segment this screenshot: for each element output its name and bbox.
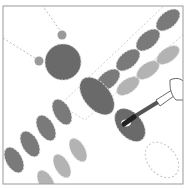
antenna-tip-top	[58, 31, 67, 40]
dragonfly-head	[45, 44, 81, 80]
illustration-canvas	[0, 0, 186, 189]
antenna-tip-left	[35, 57, 44, 66]
dragonfly-painting-illustration	[0, 0, 186, 189]
